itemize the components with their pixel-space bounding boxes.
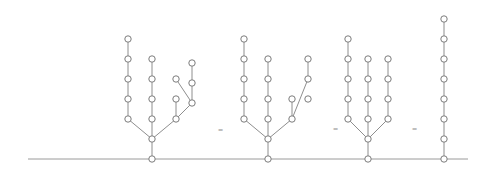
nodes-layer [125, 16, 447, 162]
tree-node [265, 76, 271, 82]
tree-node [289, 116, 295, 122]
tree-node [305, 76, 311, 82]
tree-node [385, 76, 391, 82]
tree-node [149, 136, 155, 142]
diagram-canvas [0, 0, 482, 172]
tree-node [189, 60, 195, 66]
tree-node [385, 96, 391, 102]
tree-edge [244, 119, 268, 139]
tree-node [441, 36, 447, 42]
tree-node [189, 100, 195, 106]
tree-node [241, 36, 247, 42]
tree-node [289, 96, 295, 102]
tree-node [305, 56, 311, 62]
tree-node [365, 116, 371, 122]
tree-edge [268, 119, 292, 139]
tree-edge [152, 119, 176, 139]
tree-node [365, 76, 371, 82]
tree-node [149, 96, 155, 102]
tree-node [125, 116, 131, 122]
tree-node [149, 56, 155, 62]
tree-node [345, 76, 351, 82]
tree-node [265, 136, 271, 142]
tree-node [241, 76, 247, 82]
tree-edge [348, 119, 368, 139]
tree-node [173, 76, 179, 82]
tree-node [173, 116, 179, 122]
tree-edge [128, 119, 152, 139]
tree-root-node [365, 156, 371, 162]
tree-node [241, 116, 247, 122]
tree-node [345, 116, 351, 122]
tree-node [365, 96, 371, 102]
tree-root-node [441, 156, 447, 162]
tree-node [149, 116, 155, 122]
tree-node [241, 96, 247, 102]
equals-sign-1: = [218, 126, 223, 135]
tree-node [441, 116, 447, 122]
tree-node [441, 136, 447, 142]
tree-node [125, 36, 131, 42]
tree-node [345, 96, 351, 102]
tree-root-node [265, 156, 271, 162]
tree-node [125, 76, 131, 82]
tree-node [385, 56, 391, 62]
tree-node [441, 96, 447, 102]
tree-node [125, 56, 131, 62]
tree-node [241, 56, 247, 62]
equals-sign-2: = [333, 125, 338, 134]
tree-node [441, 76, 447, 82]
tree-equivalence-diagram: = = = [0, 0, 482, 172]
tree-node [365, 56, 371, 62]
tree-node [345, 56, 351, 62]
tree-node [173, 96, 179, 102]
tree-node [125, 96, 131, 102]
tree-node [149, 76, 155, 82]
tree-node [345, 36, 351, 42]
tree-node [265, 56, 271, 62]
tree-node [365, 136, 371, 142]
tree-node [265, 116, 271, 122]
tree-root-node [149, 156, 155, 162]
equals-sign-3: = [412, 125, 417, 134]
tree-node [305, 96, 311, 102]
tree-node [385, 116, 391, 122]
tree-node [189, 80, 195, 86]
tree-node [265, 96, 271, 102]
tree-node [441, 16, 447, 22]
tree-node [441, 56, 447, 62]
tree-edge [368, 119, 388, 139]
edges-layer [128, 19, 444, 159]
